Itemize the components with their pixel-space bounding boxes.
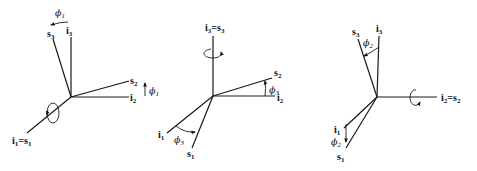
axis-s3 xyxy=(53,39,71,97)
axis-i3 xyxy=(377,36,379,97)
label-phi3-bottom: ϕ3 xyxy=(174,134,184,147)
label-i3: i3 xyxy=(376,23,383,36)
label-s2: s2 xyxy=(130,75,138,88)
panel-rotation-phi1: ϕ1 ϕ1 i3 s3 s2 i2 i1=s1 xyxy=(12,7,159,148)
label-s1: s1 xyxy=(187,148,195,161)
label-phi2-bottom: ϕ2 xyxy=(331,136,341,149)
label-s3: s3 xyxy=(47,28,55,41)
label-s2: s2 xyxy=(274,67,282,80)
label-i1: i1 xyxy=(158,129,165,142)
axis-s2 xyxy=(213,78,272,96)
rotation-indicator-icon xyxy=(410,90,420,105)
label-i2: i2 xyxy=(130,92,137,105)
label-phi2-top: ϕ2 xyxy=(363,37,373,50)
axis-s2 xyxy=(71,81,129,97)
label-i2: i2 xyxy=(277,92,284,105)
label-phi1-top: ϕ1 xyxy=(55,7,65,20)
panel-rotation-phi3: ϕ3 ϕ3 i3=s3 s2 i2 i1 s1 xyxy=(158,22,284,161)
axis-i1-s1 xyxy=(27,97,71,133)
panel-rotation-phi2: ϕ2 ϕ2 i3 s3 i2=s2 i1 s1 xyxy=(331,23,461,164)
label-i3-equals-s3: i3=s3 xyxy=(205,22,225,35)
coordinate-rotation-figure: ϕ1 ϕ1 i3 s3 s2 i2 i1=s1 ϕ3 ϕ3 i3=s3 s2 i… xyxy=(0,0,477,171)
label-s1: s1 xyxy=(337,151,345,164)
angle-arc-right-icon xyxy=(265,81,266,96)
angle-arc-bottom-icon xyxy=(176,126,195,132)
label-i1-equals-s1: i1=s1 xyxy=(12,135,32,148)
rotation-indicator-icon xyxy=(47,103,59,123)
label-s3: s3 xyxy=(352,26,360,39)
label-phi1-right: ϕ1 xyxy=(149,85,159,98)
label-i3: i3 xyxy=(66,25,73,38)
label-i2-equals-s2: i2=s2 xyxy=(441,92,461,105)
